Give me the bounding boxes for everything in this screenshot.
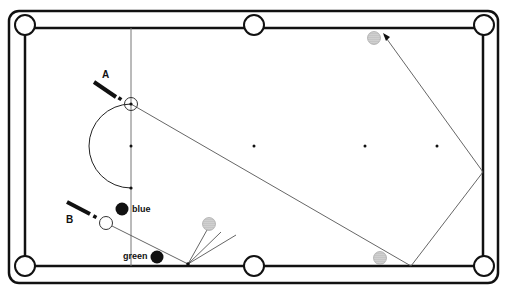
green-ball <box>151 251 164 264</box>
blue-ball <box>116 203 129 216</box>
pocket-bottom-middle <box>244 256 264 276</box>
pocket-top-left <box>15 15 35 35</box>
cue-ball-a-center <box>129 102 132 105</box>
cue-ball-b <box>100 217 113 230</box>
cue-stick-b <box>67 202 90 214</box>
label-green: green <box>123 252 148 261</box>
label-cue-a: A <box>102 70 109 80</box>
pocket-top-middle <box>244 15 264 35</box>
object-ball-bottom <box>374 252 387 265</box>
contact-point <box>186 262 190 266</box>
billiards-diagram: A B blue green <box>0 0 507 289</box>
shot-b-deflection-lines <box>188 230 236 264</box>
table-spots <box>130 145 439 148</box>
object-ball-top <box>368 32 381 45</box>
pocket-bottom-left <box>15 256 35 276</box>
label-cue-b: B <box>66 215 73 225</box>
table-drawing <box>0 0 507 289</box>
baulk-d-arc <box>89 104 131 188</box>
cue-stick-a <box>94 82 116 97</box>
pocket-top-right <box>474 15 494 35</box>
pocket-bottom-right <box>474 256 494 276</box>
cue-tip-b <box>93 214 98 219</box>
cue-tip-a <box>118 96 123 101</box>
d-end-dot <box>129 186 132 189</box>
shot-a-path <box>131 35 483 266</box>
arrow-head-icon <box>383 33 390 41</box>
label-blue: blue <box>132 205 151 214</box>
object-ball-left <box>203 218 216 231</box>
